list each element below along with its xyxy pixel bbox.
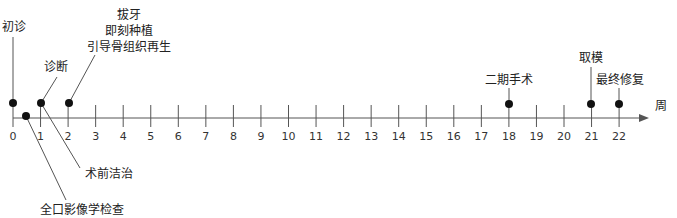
event-dot-week-22 [615, 100, 623, 108]
tick-label: 5 [147, 131, 154, 143]
tick-label: 4 [120, 131, 127, 143]
tick-label: 8 [230, 131, 237, 143]
event-dot-week-0 [9, 99, 17, 107]
tick-label: 3 [92, 131, 99, 143]
event-label-second-stage-surgery: 二期手术 [485, 73, 533, 87]
timeline-diagram [0, 0, 677, 218]
tick-label: 2 [65, 131, 72, 143]
tick-label: 21 [585, 131, 599, 143]
event-dot-week-18 [505, 100, 513, 108]
event-dot-week-21 [587, 100, 595, 108]
event-label-final-restoration: 最终修复 [596, 73, 644, 87]
tick-label: 9 [257, 131, 264, 143]
event-dot-week-2 [65, 99, 73, 107]
tick-label: 0 [10, 131, 17, 143]
axis-arrow-icon [639, 114, 649, 122]
tick-label: 11 [309, 131, 323, 143]
tick-label: 14 [392, 131, 406, 143]
tick-label: 17 [474, 131, 488, 143]
tick-label: 13 [364, 131, 378, 143]
tick-label: 7 [202, 131, 209, 143]
tick-label: 19 [529, 131, 543, 143]
event-label-diagnosis: 诊断 [44, 60, 68, 74]
axis-ticks [13, 104, 619, 127]
event-dot-week-0-5 [22, 112, 30, 120]
tick-label: 6 [175, 131, 182, 143]
axis-unit-label: 周 [655, 99, 667, 113]
tick-label: 20 [557, 131, 571, 143]
tick-label: 16 [447, 131, 461, 143]
event-dot-week-1 [37, 99, 45, 107]
tick-label: 1 [37, 131, 44, 143]
tick-label: 12 [337, 131, 351, 143]
tick-label: 18 [502, 131, 516, 143]
tick-label: 22 [612, 131, 626, 143]
event-label-immediate-implant: 即刻种植 [105, 24, 153, 38]
event-label-full-mouth-imaging: 全口影像学检查 [40, 203, 124, 217]
tick-label: 15 [419, 131, 433, 143]
event-label-impression: 取模 [579, 51, 603, 65]
event-label-extraction: 拔牙 [117, 8, 141, 22]
event-label-first-visit: 初诊 [2, 20, 26, 34]
tick-label: 10 [282, 131, 296, 143]
event-label-gbr: 引导骨组织再生 [87, 40, 171, 54]
event-label-preop-cleaning: 术前洁治 [85, 167, 133, 181]
